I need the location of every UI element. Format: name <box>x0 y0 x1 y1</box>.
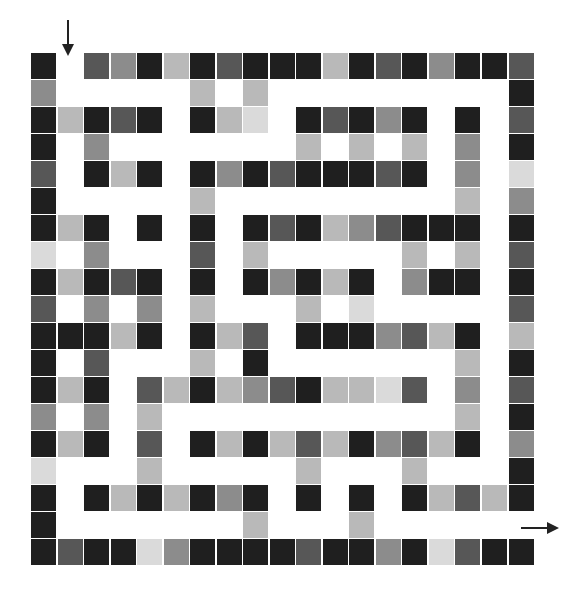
maze-wall-cell <box>402 377 427 403</box>
maze-wall-cell <box>296 431 321 457</box>
maze-wall-cell <box>243 512 268 538</box>
maze-wall-cell <box>137 269 162 295</box>
maze-wall-cell <box>455 269 480 295</box>
maze-wall-cell <box>323 377 348 403</box>
maze-wall-cell <box>349 512 374 538</box>
maze-wall-cell <box>509 80 534 106</box>
maze-wall-cell <box>323 215 348 241</box>
maze-wall-cell <box>58 269 83 295</box>
maze-wall-cell <box>84 296 109 322</box>
maze-wall-cell <box>190 296 215 322</box>
maze-wall-cell <box>349 296 374 322</box>
maze-wall-cell <box>349 323 374 349</box>
maze-wall-cell <box>190 485 215 511</box>
maze-wall-cell <box>509 53 534 79</box>
maze-wall-cell <box>84 215 109 241</box>
maze-grid <box>31 53 535 566</box>
maze-wall-cell <box>482 539 507 565</box>
maze-wall-cell <box>455 107 480 133</box>
maze-wall-cell <box>296 323 321 349</box>
maze-wall-cell <box>509 539 534 565</box>
maze-wall-cell <box>402 134 427 160</box>
maze-wall-cell <box>217 107 242 133</box>
maze-wall-cell <box>270 215 295 241</box>
maze-wall-cell <box>31 512 56 538</box>
maze-wall-cell <box>31 215 56 241</box>
maze-wall-cell <box>296 107 321 133</box>
maze-wall-cell <box>402 269 427 295</box>
maze-wall-cell <box>31 323 56 349</box>
maze-wall-cell <box>31 458 56 484</box>
maze-wall-cell <box>84 242 109 268</box>
maze-wall-cell <box>349 161 374 187</box>
maze-wall-cell <box>243 350 268 376</box>
maze-wall-cell <box>429 215 454 241</box>
maze-wall-cell <box>270 431 295 457</box>
maze-wall-cell <box>31 53 56 79</box>
maze-wall-cell <box>190 215 215 241</box>
maze-wall-cell <box>58 323 83 349</box>
maze-wall-cell <box>31 404 56 430</box>
maze-wall-cell <box>455 539 480 565</box>
maze-wall-cell <box>429 323 454 349</box>
maze-wall-cell <box>455 377 480 403</box>
maze-wall-cell <box>296 134 321 160</box>
maze-wall-cell <box>349 539 374 565</box>
maze-wall-cell <box>243 161 268 187</box>
maze-wall-cell <box>376 323 401 349</box>
maze-wall-cell <box>296 377 321 403</box>
maze-wall-cell <box>376 539 401 565</box>
maze-wall-cell <box>111 269 136 295</box>
maze-wall-cell <box>270 161 295 187</box>
maze-wall-cell <box>349 107 374 133</box>
maze-wall-cell <box>31 188 56 214</box>
maze-wall-cell <box>84 53 109 79</box>
maze-wall-cell <box>164 377 189 403</box>
maze-wall-cell <box>509 350 534 376</box>
maze-wall-cell <box>190 80 215 106</box>
maze-wall-cell <box>376 215 401 241</box>
maze-wall-cell <box>137 404 162 430</box>
maze-wall-cell <box>217 323 242 349</box>
maze-wall-cell <box>323 539 348 565</box>
maze-wall-cell <box>190 107 215 133</box>
maze-wall-cell <box>296 458 321 484</box>
maze-wall-cell <box>243 431 268 457</box>
maze-wall-cell <box>137 53 162 79</box>
maze-wall-cell <box>349 485 374 511</box>
maze-wall-cell <box>509 323 534 349</box>
maze-wall-cell <box>84 350 109 376</box>
maze-wall-cell <box>31 161 56 187</box>
maze-wall-cell <box>190 242 215 268</box>
maze-wall-cell <box>243 377 268 403</box>
maze-wall-cell <box>58 107 83 133</box>
maze-wall-cell <box>111 107 136 133</box>
maze-wall-cell <box>402 458 427 484</box>
maze-wall-cell <box>349 215 374 241</box>
maze-wall-cell <box>429 485 454 511</box>
maze-wall-cell <box>137 296 162 322</box>
maze-wall-cell <box>455 431 480 457</box>
maze-wall-cell <box>402 242 427 268</box>
maze-wall-cell <box>31 242 56 268</box>
maze-wall-cell <box>509 296 534 322</box>
maze-wall-cell <box>429 53 454 79</box>
maze-wall-cell <box>217 161 242 187</box>
maze-wall-cell <box>84 107 109 133</box>
maze-wall-cell <box>190 161 215 187</box>
maze-wall-cell <box>455 404 480 430</box>
maze-wall-cell <box>402 107 427 133</box>
maze-wall-cell <box>509 188 534 214</box>
maze-wall-cell <box>509 404 534 430</box>
maze-wall-cell <box>190 269 215 295</box>
maze-wall-cell <box>402 215 427 241</box>
maze-wall-cell <box>349 53 374 79</box>
maze-wall-cell <box>111 485 136 511</box>
maze-wall-cell <box>243 269 268 295</box>
maze-wall-cell <box>376 161 401 187</box>
maze-wall-cell <box>376 377 401 403</box>
maze-wall-cell <box>84 161 109 187</box>
maze-wall-cell <box>455 242 480 268</box>
maze-wall-cell <box>84 539 109 565</box>
maze-wall-cell <box>31 485 56 511</box>
